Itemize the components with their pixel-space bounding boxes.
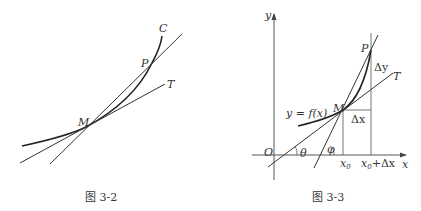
label-phi: φ <box>327 143 335 156</box>
curve-c <box>22 36 162 146</box>
label-y-axis: y <box>264 9 272 22</box>
label-p: P <box>360 42 369 55</box>
label-m: M <box>77 116 90 129</box>
figure-3-2: C P T M 图 3-2 <box>20 22 182 204</box>
label-x-axis: x <box>402 158 409 171</box>
label-m: M <box>332 102 345 115</box>
label-origin: O <box>264 146 273 159</box>
caption-3-3: 图 3-3 <box>312 191 344 204</box>
label-p: P <box>140 57 149 70</box>
tangent-line-mt <box>20 84 165 163</box>
caption-3-2: 图 3-2 <box>85 191 117 204</box>
label-delta-x: Δx <box>351 113 366 126</box>
label-x0-sub: 0 <box>346 163 351 171</box>
label-c: C <box>159 22 168 35</box>
label-t: T <box>393 70 402 83</box>
theta-arc <box>295 146 297 155</box>
secant-line-mp <box>50 34 182 164</box>
label-delta-y: Δy <box>374 61 389 74</box>
label-function: y = f(x) <box>285 107 327 120</box>
label-theta: θ <box>300 147 307 160</box>
label-x0: x0 <box>340 157 351 171</box>
label-t: T <box>167 78 176 91</box>
diagram-canvas: C P T M 图 3-2 y x O y = f(x) M P T Δx Δy… <box>0 0 421 211</box>
label-x0-plus-dx: x0+Δx <box>361 157 396 171</box>
label-x0dx-tail: +Δx <box>372 157 396 170</box>
figure-3-3: y x O y = f(x) M P T Δx Δy θ φ x0 x0+Δx … <box>252 9 409 204</box>
